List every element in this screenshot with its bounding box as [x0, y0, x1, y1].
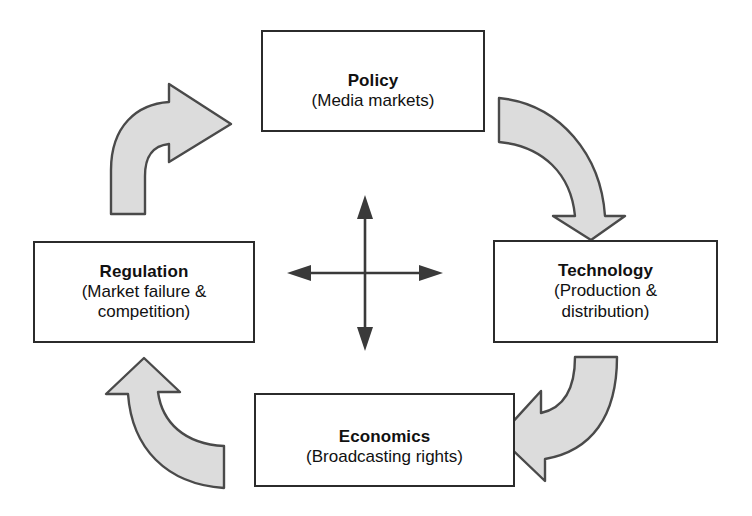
node-regulation-title: Regulation [100, 262, 189, 282]
node-economics-title: Economics [339, 427, 431, 447]
node-policy-subtitle: (Media markets) [312, 91, 435, 111]
node-regulation-subtitle-line1: (Market failure & [82, 282, 207, 302]
node-regulation-subtitle-line2: competition) [98, 302, 191, 322]
node-economics-subtitle: (Broadcasting rights) [306, 447, 463, 467]
diagram-canvas: Policy (Media markets) Technology (Produ… [0, 0, 752, 516]
arrowhead-down-icon [357, 327, 373, 351]
arrow-regulation-to-policy [103, 84, 239, 220]
node-technology-subtitle-line2: distribution) [562, 302, 650, 322]
node-economics[interactable]: Economics (Broadcasting rights) [254, 393, 515, 487]
arrow-economics-to-regulation [88, 352, 238, 492]
node-technology-title: Technology [558, 261, 653, 281]
node-regulation[interactable]: Regulation (Market failure & competition… [33, 241, 255, 343]
arrow-policy-to-technology [497, 94, 637, 244]
node-policy-title: Policy [348, 71, 399, 91]
node-technology-subtitle-line1: (Production & [554, 281, 657, 301]
arrowhead-left-icon [287, 265, 311, 281]
center-cross-arrows [287, 193, 447, 353]
node-technology[interactable]: Technology (Production & distribution) [493, 240, 718, 343]
node-policy[interactable]: Policy (Media markets) [261, 30, 485, 132]
arrowhead-up-icon [357, 195, 373, 219]
arrowhead-right-icon [419, 265, 443, 281]
